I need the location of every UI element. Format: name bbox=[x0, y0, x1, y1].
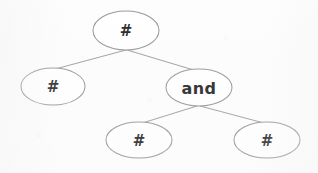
node-left-child[interactable]: # bbox=[21, 68, 85, 105]
node-and-label: and bbox=[181, 79, 216, 98]
edge-root-to-and-node bbox=[127, 50, 192, 70]
node-bottom-right-child-label: # bbox=[261, 132, 274, 150]
node-bottom-left-child-label: # bbox=[133, 132, 146, 150]
edge-root-to-left-child bbox=[57, 50, 126, 69]
node-left-child-label: # bbox=[47, 78, 60, 96]
node-root-label: # bbox=[120, 22, 133, 40]
node-bottom-left-child[interactable]: # bbox=[106, 122, 172, 158]
parse-tree-graphic: # # and # # bbox=[0, 0, 318, 173]
edge-and-node-to-bottom-left-child bbox=[144, 106, 197, 123]
node-group: # # and # # bbox=[21, 11, 300, 158]
node-root[interactable]: # bbox=[93, 11, 159, 50]
edge-and-node-to-bottom-right-child bbox=[200, 106, 262, 123]
node-bottom-right-child[interactable]: # bbox=[234, 122, 300, 158]
tree-diagram-canvas: # # and # # bbox=[0, 0, 318, 173]
node-and[interactable]: and bbox=[166, 69, 232, 106]
